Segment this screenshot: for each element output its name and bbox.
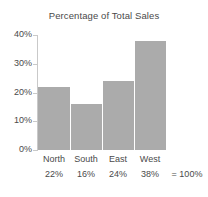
category-label: East — [102, 153, 134, 166]
y-axis-tick-label: 40% — [0, 29, 32, 39]
y-axis-tick-label: 30% — [0, 58, 32, 68]
category-label: South — [70, 153, 102, 166]
bar — [135, 41, 167, 150]
bar — [103, 81, 134, 150]
plot-area — [38, 35, 166, 150]
chart-title: Percentage of Total Sales — [0, 10, 208, 21]
y-axis-tick-mark — [33, 64, 37, 65]
value-label: 22% — [38, 168, 70, 181]
value-label: 38% — [134, 168, 166, 181]
bar — [71, 104, 102, 150]
total-label: = 100% — [166, 168, 208, 181]
y-axis-tick-label: 20% — [0, 87, 32, 97]
value-label-row: 22%16%24%38% — [38, 168, 166, 181]
chart-figure: Percentage of Total Sales NorthSouthEast… — [0, 0, 208, 197]
y-axis-tick-mark — [33, 93, 37, 94]
bar — [38, 87, 70, 150]
y-axis-tick-mark — [33, 150, 37, 151]
category-label: West — [134, 153, 166, 166]
y-axis-tick-mark — [33, 35, 37, 36]
y-axis-tick-mark — [33, 121, 37, 122]
value-label: 16% — [70, 168, 102, 181]
y-axis-tick-label: 0% — [0, 144, 32, 154]
category-label-row: NorthSouthEastWest — [38, 153, 166, 166]
y-axis-tick-label: 10% — [0, 115, 32, 125]
category-label: North — [38, 153, 70, 166]
value-label: 24% — [102, 168, 134, 181]
